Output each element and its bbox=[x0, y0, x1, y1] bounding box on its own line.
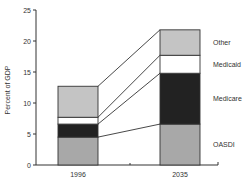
bar-segment-medicaid bbox=[160, 55, 200, 73]
y-axis-label: Percent of GDP bbox=[4, 65, 11, 114]
bar-segment-medicare bbox=[160, 73, 200, 124]
bar-segment-other bbox=[160, 30, 200, 55]
y-tick-label: 20 bbox=[23, 38, 31, 45]
connector-lines bbox=[98, 30, 160, 137]
bars bbox=[58, 30, 200, 165]
stacked-bar-chart: 0510152025 19962035OASDIMedicareMedicaid… bbox=[0, 0, 248, 183]
connector-line bbox=[98, 30, 160, 86]
y-tick-label: 15 bbox=[23, 69, 31, 76]
connector-line bbox=[98, 55, 160, 117]
y-tick-label: 0 bbox=[27, 162, 31, 169]
bar-segment-medicaid bbox=[58, 117, 98, 124]
legend-label-oasdi: OASDI bbox=[213, 141, 235, 148]
bar-segment-medicare bbox=[58, 124, 98, 137]
bar-segment-other bbox=[58, 86, 98, 117]
legend-label-other: Other bbox=[213, 39, 231, 46]
legend-label-medicare: Medicare bbox=[213, 95, 242, 102]
x-tick-label: 2035 bbox=[172, 171, 188, 178]
bar-segment-oasdi bbox=[160, 124, 200, 165]
y-tick-label: 10 bbox=[23, 100, 31, 107]
x-tick-label: 1996 bbox=[70, 171, 86, 178]
bar-segment-oasdi bbox=[58, 137, 98, 165]
connector-line bbox=[98, 73, 160, 124]
y-tick-label: 25 bbox=[23, 7, 31, 14]
y-tick-label: 5 bbox=[27, 131, 31, 138]
connector-line bbox=[98, 124, 160, 137]
legend-label-medicaid: Medicaid bbox=[213, 61, 241, 68]
